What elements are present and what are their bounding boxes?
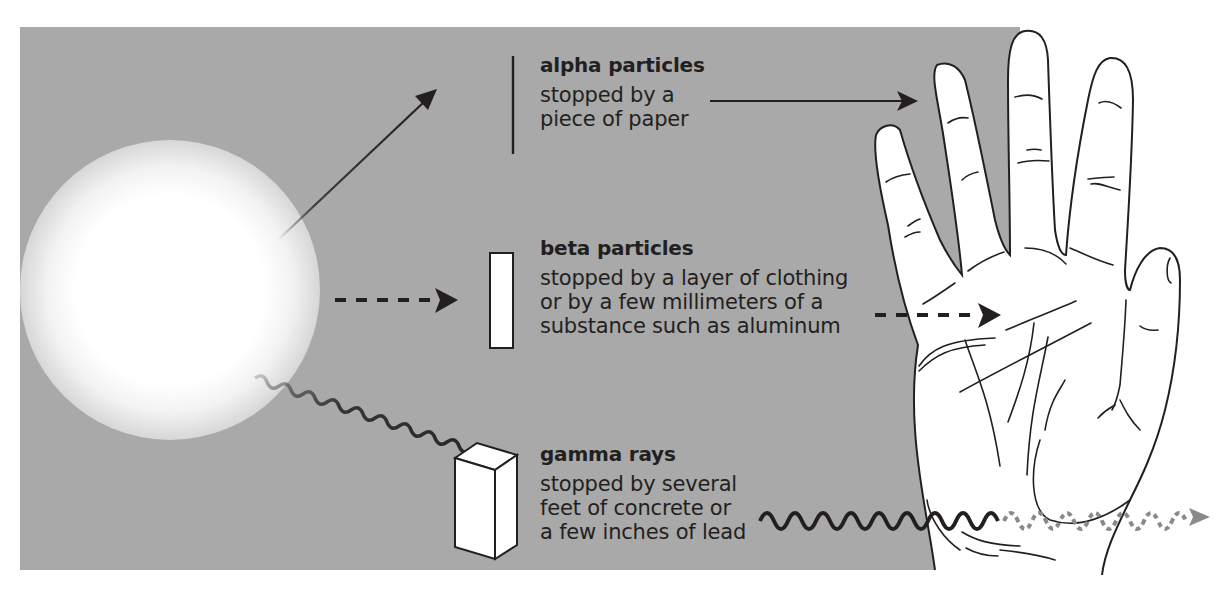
alpha-description: stopped by a piece of paper [540, 84, 705, 132]
alpha-title: alpha particles [540, 54, 705, 77]
thin-slab-barrier [490, 253, 513, 348]
gamma-description: stopped by several feet of concrete or a… [540, 473, 746, 545]
beta-description: stopped by a layer of clothing or by a f… [540, 267, 848, 339]
gamma-title: gamma rays [540, 443, 746, 466]
arrowhead-icon [435, 288, 458, 313]
thick-block-barrier [455, 443, 517, 559]
gamma-label-block: gamma rays stopped by several feet of co… [540, 443, 746, 545]
beta-label-block: beta particles stopped by a layer of clo… [540, 237, 848, 339]
arrowhead-icon [1189, 508, 1210, 526]
hand-outline-icon [875, 31, 1180, 575]
radiation-diagram: alpha particles stopped by a piece of pa… [0, 0, 1232, 601]
alpha-label-block: alpha particles stopped by a piece of pa… [540, 54, 705, 132]
beta-title: beta particles [540, 237, 848, 260]
